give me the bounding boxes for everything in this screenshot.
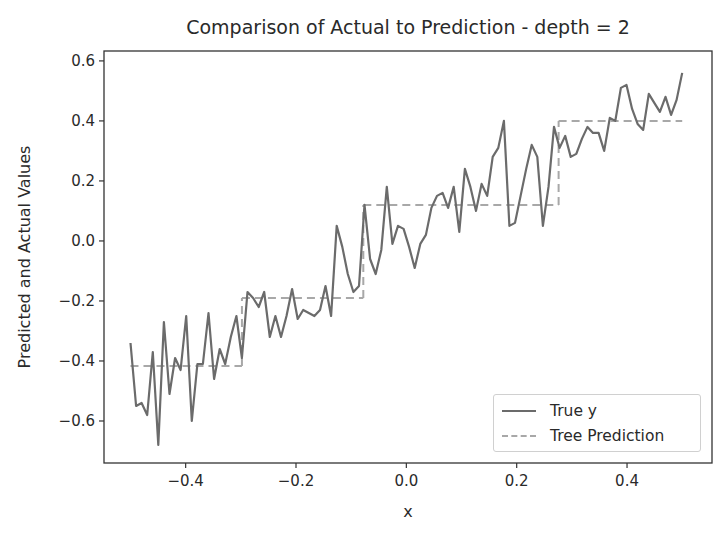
y-tick-label: −0.2: [59, 292, 95, 310]
y-tick-label: 0.0: [71, 232, 95, 250]
chart-figure: −0.4−0.20.00.20.4−0.6−0.4−0.20.00.20.40.…: [0, 0, 728, 536]
legend-label: Tree Prediction: [550, 427, 664, 445]
x-tick-label: 0.4: [615, 472, 639, 490]
y-tick-label: −0.6: [59, 412, 95, 430]
legend-label: True y: [550, 402, 597, 420]
y-axis-label: Predicted and Actual Values: [15, 146, 34, 369]
x-axis-label: x: [104, 502, 712, 521]
chart-title: Comparison of Actual to Prediction - dep…: [104, 16, 712, 38]
y-tick-label: −0.4: [59, 352, 95, 370]
x-tick-label: −0.4: [167, 472, 203, 490]
y-tick-label: 0.6: [71, 52, 95, 70]
dashed-line-icon: [502, 435, 536, 437]
x-tick-label: 0.0: [394, 472, 418, 490]
solid-line-icon: [502, 410, 536, 412]
y-tick-label: 0.2: [71, 172, 95, 190]
y-tick-label: 0.4: [71, 112, 95, 130]
x-tick-label: −0.2: [278, 472, 314, 490]
true-y-line: [131, 73, 683, 445]
legend-item-true-y: True y: [502, 399, 597, 423]
legend-item-tree-prediction: Tree Prediction: [502, 424, 664, 448]
chart-canvas: −0.4−0.20.00.20.4−0.6−0.4−0.20.00.20.40.…: [0, 0, 728, 536]
x-tick-label: 0.2: [505, 472, 529, 490]
legend: True y Tree Prediction: [493, 394, 701, 452]
